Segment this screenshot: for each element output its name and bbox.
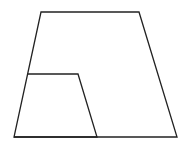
inner-trapezoid	[14, 74, 97, 137]
geometry-diagram	[0, 0, 189, 148]
